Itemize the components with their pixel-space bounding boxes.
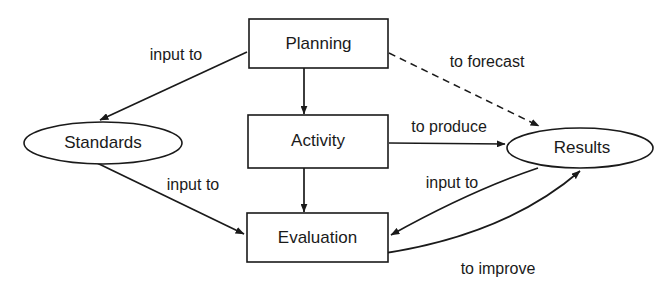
edge-standards-to-evaluation: input to [97,163,244,234]
node-planning-label: Planning [285,34,351,53]
edge-label-evaluation-to-results: to improve [461,260,536,277]
node-activity[interactable]: Activity [248,115,388,168]
edge-planning-to-results: to forecast [389,53,539,126]
node-activity-label: Activity [291,131,345,150]
edge-results-to-evaluation: input to [391,168,538,235]
node-planning[interactable]: Planning [249,19,388,68]
edge-activity-to-results-line [389,143,505,144]
node-evaluation-label: Evaluation [278,228,357,247]
edge-activity-to-results: to produce [389,118,505,144]
edge-label-standards-to-planning: input to [150,46,203,63]
node-evaluation[interactable]: Evaluation [247,213,388,262]
edge-label-planning-to-results: to forecast [450,53,525,70]
edge-standards-to-planning: input to [100,46,247,120]
edge-label-activity-to-results: to produce [411,118,487,135]
edge-label-standards-to-evaluation: input to [167,176,220,193]
diagram-canvas: input to to forecast to produce input to [0,0,659,297]
node-results-label: Results [554,138,611,157]
flow-diagram: input to to forecast to produce input to [0,0,659,297]
node-standards[interactable]: Standards [24,122,182,164]
edge-label-results-to-evaluation: input to [426,174,479,191]
edge-standards-to-evaluation-line [97,163,244,234]
node-results[interactable]: Results [507,128,653,168]
node-standards-label: Standards [64,133,142,152]
